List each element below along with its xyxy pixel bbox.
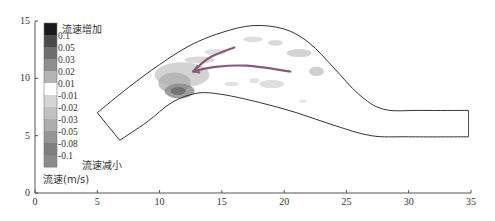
colorbar-title: 流速(m/s) xyxy=(43,173,89,185)
flow-velocity-chart: 05101520253035 051015 0.10.050.030.020.0… xyxy=(0,0,495,221)
y-tick-label: 15 xyxy=(20,15,30,26)
colorbar-level-label: -0.1 xyxy=(58,151,73,161)
y-tick-label: 0 xyxy=(25,187,30,198)
colorbar-segment xyxy=(44,107,57,119)
colorbar-segment xyxy=(44,35,57,47)
inner-bank-line xyxy=(120,93,469,141)
colorbar-level-label: 0.02 xyxy=(58,67,75,77)
velocity-patch xyxy=(243,36,263,42)
colorbar-level-label: -0.08 xyxy=(58,139,78,149)
colorbar-segment xyxy=(44,119,57,131)
colorbar-level-label: -0.01 xyxy=(58,91,78,101)
x-tick-label: 35 xyxy=(466,196,476,207)
y-tick-label: 5 xyxy=(25,130,30,141)
colorbar-level-label: 0.03 xyxy=(58,55,75,65)
colorbar-segment xyxy=(44,83,57,95)
colorbar-level-label: -0.03 xyxy=(58,115,78,125)
x-tick-label: 25 xyxy=(341,196,351,207)
velocity-patch xyxy=(287,49,312,57)
colorbar-segment xyxy=(44,143,57,155)
inlet-edge-line xyxy=(97,113,119,141)
colorbar-segment xyxy=(44,71,57,83)
x-tick-label: 15 xyxy=(217,196,227,207)
velocity-patch xyxy=(259,80,284,88)
outer-bank-line xyxy=(97,25,468,112)
colorbar-segment xyxy=(44,131,57,143)
velocity-patch xyxy=(309,67,324,76)
arrow-lower xyxy=(193,65,290,71)
x-tick-label: 20 xyxy=(279,196,289,207)
velocity-patch xyxy=(171,87,186,95)
colorbar-segment xyxy=(44,155,57,167)
colorbar-level-label: 0.01 xyxy=(58,79,75,89)
x-tick-label: 0 xyxy=(33,196,38,207)
colorbar-level-label: 0.05 xyxy=(58,43,75,53)
colorbar-top-annotation: 流速增加 xyxy=(62,23,102,35)
velocity-patch xyxy=(299,100,306,103)
velocity-patch xyxy=(268,40,283,46)
colorbar-bottom-annotation: 流速减小 xyxy=(82,159,122,171)
colorbar-segment xyxy=(44,95,57,107)
colorbar-segment xyxy=(44,59,57,71)
colorbar-level-label: -0.02 xyxy=(58,103,78,113)
velocity-patch xyxy=(249,78,259,83)
velocity-patch xyxy=(224,82,239,87)
velocity-patches xyxy=(155,36,324,103)
x-tick-label: 10 xyxy=(155,196,165,207)
colorbar-level-label: -0.05 xyxy=(58,127,78,137)
colorbar: 0.10.050.030.020.01-0.01-0.02-0.03-0.05-… xyxy=(44,23,78,167)
colorbar-segment xyxy=(44,47,57,59)
y-tick-label: 10 xyxy=(20,72,30,83)
x-tick-label: 5 xyxy=(95,196,100,207)
colorbar-segment xyxy=(44,23,57,35)
x-tick-label: 30 xyxy=(404,196,414,207)
